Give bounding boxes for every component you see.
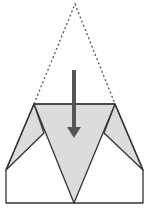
origami-diagram: [0, 0, 150, 212]
